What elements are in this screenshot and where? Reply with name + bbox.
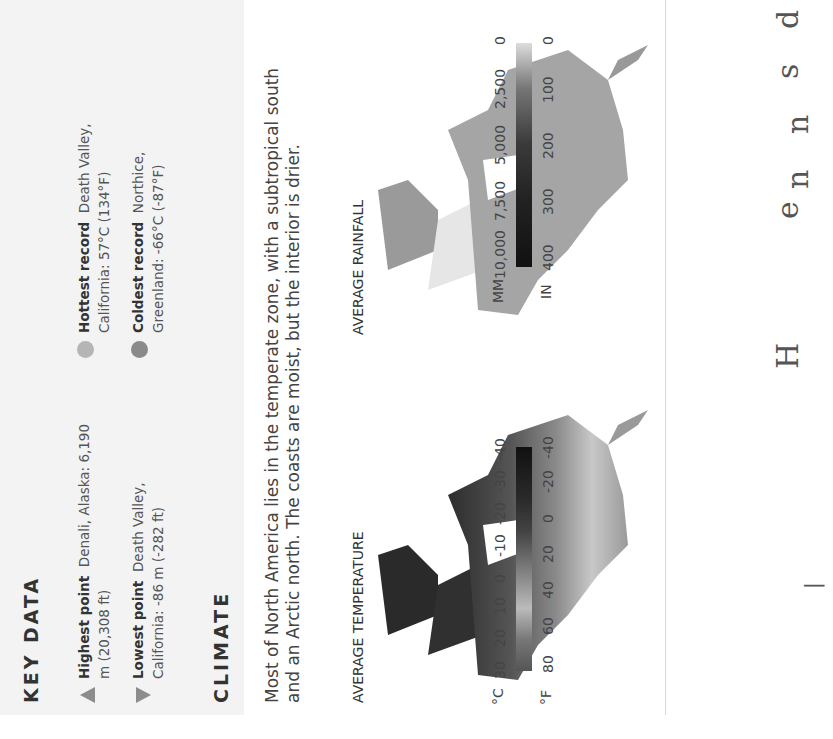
rainfall-map xyxy=(368,30,658,330)
triangle-up-icon xyxy=(80,687,95,703)
text-fragment: n xyxy=(780,170,815,189)
hottest-dot-icon xyxy=(77,341,94,358)
coldest-dot-icon xyxy=(131,341,148,358)
key-data-item-coldest: Coldest record Northice, Greenland: -66°… xyxy=(128,73,168,333)
celsius-unit: °C xyxy=(490,688,506,705)
rainfall-map-title: AVERAGE RAINFALL xyxy=(350,200,366,335)
temperature-color-bar xyxy=(516,447,532,671)
key-data-item-highest: Highest point Denali, Alaska: 6,190 m (2… xyxy=(74,419,114,679)
key-data-item-lowest: Lowest point Death Valley, California: -… xyxy=(128,419,168,679)
bottom-divider xyxy=(665,0,666,715)
climate-heading: CLIMATE xyxy=(210,591,232,703)
text-fragment: n xyxy=(780,115,815,134)
text-fragment: e xyxy=(770,201,805,219)
temperature-map xyxy=(368,395,658,695)
text-fragment: | xyxy=(800,582,824,589)
temperature-map-title: AVERAGE TEMPERATURE xyxy=(350,531,366,703)
triangle-down-icon xyxy=(136,687,151,703)
text-fragment: d xyxy=(770,10,805,29)
fahrenheit-unit: °F xyxy=(538,690,554,705)
text-fragment: s xyxy=(770,64,805,79)
key-data-heading: KEY DATA xyxy=(20,576,42,703)
climate-paragraph: Most of North America lies in the temper… xyxy=(262,63,304,703)
mm-unit: MM xyxy=(490,279,506,303)
text-fragment: H xyxy=(770,343,805,369)
key-data-item-hottest: Hottest record Death Valley, California:… xyxy=(74,73,114,333)
in-unit: IN xyxy=(538,284,554,299)
rotated-page: | H e n n s d KEY DATA Highest point Den… xyxy=(0,0,833,739)
rainfall-color-bar xyxy=(516,43,532,267)
content-panel: KEY DATA Highest point Denali, Alaska: 6… xyxy=(0,0,665,715)
